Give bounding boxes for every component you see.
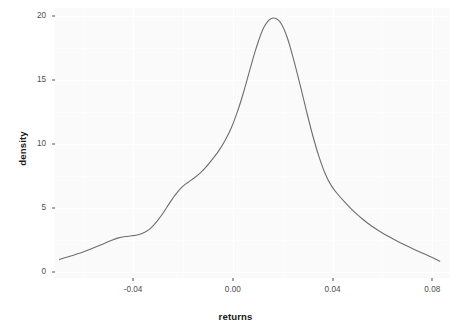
x-tick-label: 0.08 — [424, 286, 440, 294]
y-tick-label: 15 — [24, 76, 46, 84]
x-tick-label: -0.04 — [124, 286, 143, 294]
x-tick-mark — [332, 278, 333, 281]
y-tick-label: 5 — [24, 204, 46, 212]
y-tick-mark — [52, 15, 55, 16]
y-tick-label: 0 — [24, 268, 46, 276]
y-tick-mark — [52, 208, 55, 209]
y-tick-label: 20 — [24, 12, 46, 20]
y-axis-title: density — [17, 109, 28, 189]
plot-panel — [55, 8, 450, 278]
x-tick-mark — [133, 278, 134, 281]
y-tick-mark — [52, 143, 55, 144]
x-tick-mark — [432, 278, 433, 281]
x-tick-mark — [232, 278, 233, 281]
y-tick-mark — [52, 79, 55, 80]
x-tick-label: 0.00 — [225, 286, 241, 294]
density-curve-path — [59, 18, 439, 261]
x-tick-label: 0.04 — [325, 286, 341, 294]
x-axis-title: returns — [0, 311, 471, 322]
y-tick-mark — [52, 272, 55, 273]
density-curve-svg — [55, 8, 450, 278]
density-plot-figure: 05101520 -0.040.000.040.08 returns densi… — [0, 0, 471, 335]
